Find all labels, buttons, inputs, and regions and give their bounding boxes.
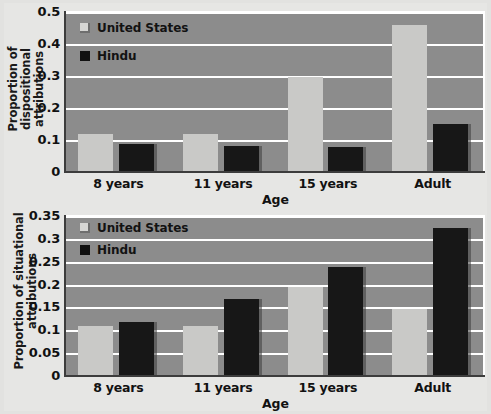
y-axis-line-situational <box>64 215 66 377</box>
figure-page: Proportion of dispositional attributions… <box>0 0 491 414</box>
bar-united-states <box>392 309 427 375</box>
y-tick-label: 0.3 <box>38 230 60 245</box>
y-tick-label: 0.25 <box>29 253 60 268</box>
y-axis-line-dispositional <box>64 11 66 173</box>
bar-united-states <box>288 287 323 375</box>
x-axis-line-situational <box>64 375 485 377</box>
y-tick-label: 0 <box>51 164 60 179</box>
x-tick-label: 15 years <box>276 380 381 395</box>
legend-swatch-united-states-icon <box>80 23 90 33</box>
x-tick-label: 8 years <box>66 380 171 395</box>
bar-united-states <box>78 326 113 375</box>
bar-united-states <box>183 326 218 375</box>
gridline <box>66 12 483 14</box>
bar-united-states <box>78 134 113 171</box>
bar-hindu <box>119 322 154 375</box>
legend-situational: United States Hindu <box>80 221 188 263</box>
gridline <box>66 285 483 287</box>
legend-item-hindu: Hindu <box>80 49 188 63</box>
legend-swatch-united-states-icon <box>80 223 90 233</box>
y-axis-ticks-dispositional: 00.10.20.30.40.5 <box>14 3 60 207</box>
y-tick-label: 0.5 <box>38 4 60 19</box>
y-tick-label: 0.2 <box>38 276 60 291</box>
legend-label-united-states: United States <box>97 21 188 35</box>
y-tick-label: 0.35 <box>29 208 60 223</box>
x-tick-label: 8 years <box>66 176 171 191</box>
legend-label-hindu: Hindu <box>97 49 136 63</box>
y-tick-label: 0.1 <box>38 132 60 147</box>
chart-situational: Proportion of situational attributions 0… <box>4 207 487 411</box>
bar-united-states <box>288 77 323 171</box>
x-axis-title-situational: Age <box>66 396 485 411</box>
x-tick-label: Adult <box>380 176 485 191</box>
gridline <box>66 216 483 218</box>
x-axis-title-dispositional: Age <box>66 192 485 207</box>
y-tick-label: 0.15 <box>29 299 60 314</box>
x-tick-label: 15 years <box>276 176 381 191</box>
legend-label-united-states: United States <box>97 221 188 235</box>
x-axis-ticks-situational: 8 years11 years15 yearsAdult <box>66 380 485 395</box>
bar-united-states <box>392 25 427 171</box>
legend-dispositional: United States Hindu <box>80 21 188 69</box>
bar-hindu <box>328 147 363 171</box>
bar-united-states <box>183 134 218 171</box>
legend-swatch-hindu-icon <box>80 51 90 61</box>
plot-area-situational: United States Hindu <box>66 215 485 375</box>
y-axis-ticks-situational: 00.050.10.150.20.250.30.35 <box>14 207 60 411</box>
x-tick-label: Adult <box>380 380 485 395</box>
bar-hindu <box>119 144 154 171</box>
bar-hindu <box>433 124 468 171</box>
x-axis-line-dispositional <box>64 171 485 173</box>
legend-item-hindu: Hindu <box>80 243 188 257</box>
legend-label-hindu: Hindu <box>97 243 136 257</box>
y-tick-label: 0.3 <box>38 68 60 83</box>
figure-page-inner: Proportion of dispositional attributions… <box>4 3 487 411</box>
bar-hindu <box>224 146 259 171</box>
legend-item-united-states: United States <box>80 221 188 235</box>
y-tick-label: 0 <box>51 368 60 383</box>
y-tick-label: 0.05 <box>29 345 60 360</box>
x-axis-ticks-dispositional: 8 years11 years15 yearsAdult <box>66 176 485 191</box>
x-tick-label: 11 years <box>171 176 276 191</box>
y-tick-label: 0.1 <box>38 322 60 337</box>
bar-hindu <box>433 228 468 375</box>
bar-hindu <box>224 299 259 375</box>
chart-dispositional: Proportion of dispositional attributions… <box>4 3 487 207</box>
bar-hindu <box>328 267 363 375</box>
legend-item-united-states: United States <box>80 21 188 35</box>
y-tick-label: 0.2 <box>38 100 60 115</box>
y-tick-label: 0.4 <box>38 36 60 51</box>
x-tick-label: 11 years <box>171 380 276 395</box>
legend-swatch-hindu-icon <box>80 245 90 255</box>
plot-area-dispositional: United States Hindu <box>66 11 485 171</box>
